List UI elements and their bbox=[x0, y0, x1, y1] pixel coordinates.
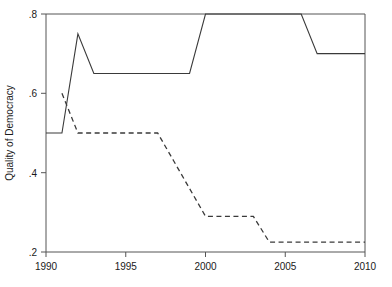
y-axis-tick-labels: .8 .6 .4 .2 bbox=[29, 9, 38, 258]
x-axis-tick-labels: 1990 1995 2000 2005 2010 bbox=[35, 261, 377, 272]
y-axis-title: Quality of Democracy bbox=[4, 85, 15, 181]
x-tick-label-1995: 1995 bbox=[115, 261, 138, 272]
y-tick-label-06: .6 bbox=[29, 88, 38, 99]
x-axis-ticks bbox=[46, 252, 365, 257]
y-tick-label-04: .4 bbox=[29, 168, 38, 179]
x-tick-label-2000: 2000 bbox=[194, 261, 217, 272]
y-tick-label-08: .8 bbox=[29, 9, 38, 20]
y-axis-ticks bbox=[41, 14, 46, 252]
chart-container: .8 .6 .4 .2 1990 1995 2000 2005 2010 Qua… bbox=[0, 0, 392, 287]
line-chart: .8 .6 .4 .2 1990 1995 2000 2005 2010 Qua… bbox=[0, 0, 392, 287]
x-tick-label-1990: 1990 bbox=[35, 261, 58, 272]
series-line-dashed bbox=[62, 93, 365, 242]
plot-frame bbox=[46, 14, 365, 252]
data-series-group bbox=[46, 14, 365, 242]
series-line-solid bbox=[46, 14, 365, 133]
x-tick-label-2010: 2010 bbox=[354, 261, 377, 272]
x-tick-label-2005: 2005 bbox=[274, 261, 297, 272]
y-tick-label-02: .2 bbox=[29, 247, 38, 258]
